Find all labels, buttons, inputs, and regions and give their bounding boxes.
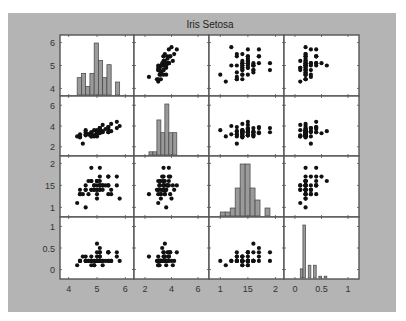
data-point [268,259,272,263]
y-tick-label: 2 [50,159,55,169]
data-point [309,192,313,196]
data-point [115,250,119,254]
data-point [161,250,165,254]
histogram-bar [98,60,102,95]
data-point [103,127,107,131]
data-point [109,192,113,196]
panel-r1-c1 [60,35,134,96]
data-point [147,255,151,259]
histogram-bar [165,104,169,155]
data-point [75,201,79,205]
data-point [303,52,307,56]
data-point [163,52,167,56]
data-point [175,47,179,51]
data-point [95,197,99,201]
data-point [81,255,85,259]
data-point [109,129,113,133]
y-tick-label: 2 [50,142,55,152]
data-point [172,188,176,192]
data-point [246,255,250,259]
data-point [246,250,250,254]
data-point [298,134,302,138]
data-point [268,126,272,130]
data-point [298,79,302,83]
data-point [257,131,261,135]
data-point [314,179,318,183]
data-point [309,188,313,192]
data-point [147,75,151,79]
data-point [235,255,239,259]
data-point [298,66,302,70]
data-point [314,192,318,196]
data-point [240,77,244,81]
data-point [303,175,307,179]
data-point [106,250,110,254]
histogram-bar [265,208,270,216]
axes-background [209,217,284,279]
data-point [246,47,250,51]
data-point [109,259,113,263]
x-tick-label: 5 [94,284,99,294]
data-point [98,179,102,183]
chart-title: Iris Setosa [186,19,234,30]
data-point [81,142,85,146]
y-tick-label: 4 [50,122,55,132]
data-point [235,63,239,67]
data-point [115,126,119,130]
data-point [84,259,88,263]
data-point [268,61,272,65]
histogram-bar [250,188,255,216]
data-point [303,127,307,131]
data-point [84,128,88,132]
data-point [314,126,318,130]
axes-background [284,217,359,279]
data-point [92,263,96,267]
data-point [86,192,90,196]
data-point [240,52,244,56]
data-point [163,179,167,183]
data-point [175,250,179,254]
data-point [115,255,119,259]
data-point [251,250,255,254]
data-point [89,166,93,170]
data-point [164,205,168,209]
data-point [109,188,113,192]
data-point [167,255,171,259]
histogram-bar [245,164,250,216]
data-point [161,166,165,170]
data-point [314,61,318,65]
panel-r2-c3 [209,96,284,156]
panel-r3-c2 [134,156,209,217]
data-point [251,242,255,246]
data-point [309,75,313,79]
data-point [240,122,244,126]
y-tick-label: 15 [45,181,55,191]
y-tick-label: 4 [50,84,55,94]
data-point [167,166,171,170]
histogram-bar [77,78,81,95]
data-point [160,175,164,179]
data-point [314,130,318,134]
y-tick-label: 0.5 [42,244,55,254]
data-point [98,250,102,254]
panel-r1-c2 [134,35,209,96]
data-point [229,45,233,49]
data-point [298,188,302,192]
data-point [109,122,113,126]
panel-r1-c4 [284,35,359,96]
panel-r3-c3 [209,156,284,217]
histogram-bar [103,78,107,95]
data-point [84,205,88,209]
histogram-bar [173,133,177,155]
data-point [240,255,244,259]
x-tick-label: 6 [196,284,201,294]
data-point [251,126,255,130]
data-point [325,179,329,183]
x-tick-label: 2 [142,284,147,294]
data-point [314,175,318,179]
data-point [257,61,261,65]
data-point [98,246,102,250]
data-point [268,130,272,134]
scatter-matrix-plot: Iris Setosa 456246115200.51456246115200.… [0,0,406,321]
histogram-bar [149,152,153,155]
